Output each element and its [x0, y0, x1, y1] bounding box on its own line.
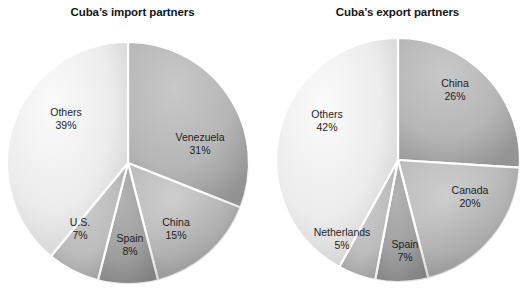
pie-charts-canvas — [0, 0, 530, 300]
pie-slice-export-china[interactable] — [398, 38, 520, 168]
